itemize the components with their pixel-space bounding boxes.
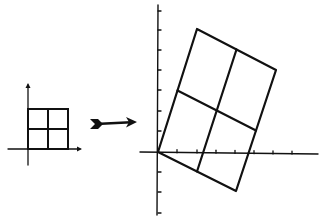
right-x-axis xyxy=(140,152,318,154)
diagram-canvas xyxy=(0,0,321,224)
left-y-axis-arrowhead-icon xyxy=(26,83,31,88)
transformed-grid-panel xyxy=(140,5,318,215)
transform-arrow-icon xyxy=(90,117,137,129)
original-grid-panel xyxy=(8,83,82,165)
right-y-axis xyxy=(157,5,158,215)
transformation-diagram xyxy=(0,0,321,224)
left-x-axis-arrowhead-icon xyxy=(77,147,82,152)
arrow-fletching xyxy=(90,119,103,129)
